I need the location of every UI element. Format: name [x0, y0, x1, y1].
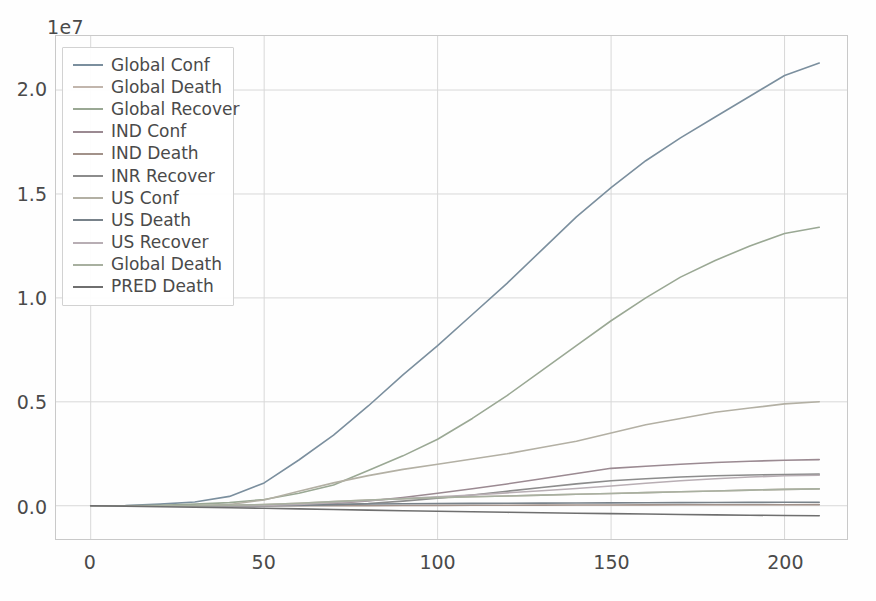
legend-color-swatch — [73, 153, 103, 155]
legend-item[interactable]: US Recover — [70, 232, 226, 254]
legend-color-swatch — [73, 64, 103, 66]
x-tick-label: 0 — [84, 551, 96, 573]
y-tick-label: 0.5 — [17, 391, 47, 413]
legend-item-label: Global Death — [111, 79, 222, 96]
y-axis-tick-labels: 0.00.51.01.52.0 — [0, 35, 47, 540]
series-line — [91, 460, 820, 506]
y-tick-label: 0.0 — [17, 496, 47, 518]
x-tick-label: 100 — [419, 551, 455, 573]
chart-figure: 1e7 0.00.51.01.52.0 050100150200 Global … — [0, 0, 876, 601]
legend-item[interactable]: IND Death — [70, 143, 226, 165]
legend-color-swatch — [73, 131, 103, 133]
y-tick-label: 1.5 — [17, 183, 47, 205]
legend-color-swatch — [73, 86, 103, 88]
legend-item[interactable]: Global Conf — [70, 54, 226, 76]
legend-color-swatch — [73, 242, 103, 244]
series-line — [91, 402, 820, 506]
legend-color-swatch — [73, 108, 103, 110]
y-tick-label: 1.0 — [17, 287, 47, 309]
x-tick-label: 50 — [252, 551, 276, 573]
x-tick-label: 200 — [767, 551, 803, 573]
x-axis-tick-labels: 050100150200 — [55, 543, 848, 583]
series-line — [91, 506, 820, 516]
legend-color-swatch — [73, 219, 103, 221]
legend-item[interactable]: Global Death — [70, 254, 226, 276]
legend-item[interactable]: IND Conf — [70, 121, 226, 143]
legend-item[interactable]: Global Recover — [70, 98, 226, 120]
x-tick-label: 150 — [593, 551, 629, 573]
legend-color-swatch — [73, 286, 103, 288]
legend-item-label: US Conf — [111, 190, 179, 207]
legend-item-label: US Death — [111, 212, 191, 229]
legend-item-label: PRED Death — [111, 278, 214, 295]
legend-item[interactable]: Global Death — [70, 76, 226, 98]
legend-item-label: Global Conf — [111, 57, 210, 74]
legend-item-label: INR Recover — [111, 168, 215, 185]
legend-item-label: US Recover — [111, 234, 208, 251]
legend-item-label: IND Death — [111, 145, 199, 162]
legend-color-swatch — [73, 197, 103, 199]
legend-item[interactable]: US Conf — [70, 187, 226, 209]
legend-color-swatch — [73, 175, 103, 177]
legend-item-label: Global Death — [111, 256, 222, 273]
y-tick-label: 2.0 — [17, 78, 47, 100]
legend-color-swatch — [73, 264, 103, 266]
legend-item-label: IND Conf — [111, 123, 186, 140]
chart-legend: Global ConfGlobal DeathGlobal RecoverIND… — [62, 47, 234, 306]
legend-item[interactable]: US Death — [70, 209, 226, 231]
legend-item[interactable]: INR Recover — [70, 165, 226, 187]
legend-item-label: Global Recover — [111, 101, 239, 118]
legend-item[interactable]: PRED Death — [70, 276, 226, 298]
